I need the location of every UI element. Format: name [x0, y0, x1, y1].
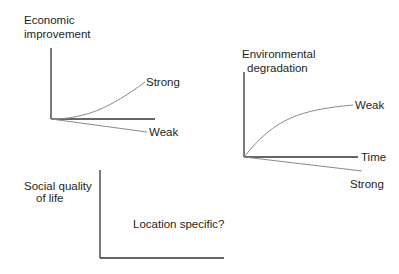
- economic-graph: [51, 48, 155, 132]
- environmental-graph: [244, 72, 362, 171]
- economic-weak-curve: [51, 119, 147, 132]
- environmental-title-line2: degradation: [247, 61, 308, 75]
- social-annotation: Location specific?: [133, 217, 224, 231]
- social-graph: [100, 170, 224, 258]
- environmental-strong-curve: [244, 157, 362, 171]
- economic-strong-curve: [51, 82, 145, 119]
- economic-title-line1: Economic: [24, 13, 75, 27]
- economic-strong-label: Strong: [146, 75, 180, 89]
- environmental-weak-curve: [244, 105, 353, 157]
- environmental-title-line1: Environmental: [242, 47, 316, 61]
- economic-title-line2: improvement: [24, 27, 90, 41]
- environmental-time-label: Time: [361, 150, 386, 164]
- diagram-canvas: [0, 0, 399, 274]
- social-title-line2: of life: [36, 191, 64, 205]
- environmental-weak-label: Weak: [355, 98, 384, 112]
- environmental-strong-label: Strong: [350, 177, 384, 191]
- economic-weak-label: Weak: [149, 125, 178, 139]
